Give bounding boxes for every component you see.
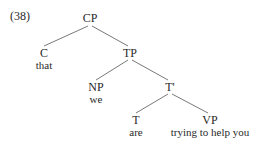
word-that: that: [36, 60, 53, 71]
node-c: C: [40, 47, 48, 59]
node-t: T: [132, 114, 139, 126]
edge-tbar-t: [136, 94, 168, 113]
node-tbar: T': [165, 81, 175, 93]
edge-cp-tp: [92, 26, 128, 46]
word-we: we: [90, 94, 103, 105]
edge-tp-tbar: [132, 60, 168, 80]
edge-tp-np: [96, 60, 128, 80]
edge-tbar-vp: [172, 94, 208, 113]
node-vp: VP: [202, 114, 217, 126]
node-np: NP: [88, 81, 103, 93]
word-trying-to-help-you: trying to help you: [171, 127, 250, 138]
node-cp: CP: [83, 12, 98, 24]
edge-cp-c: [44, 26, 88, 46]
node-tp: TP: [123, 47, 137, 59]
word-are: are: [129, 127, 142, 138]
